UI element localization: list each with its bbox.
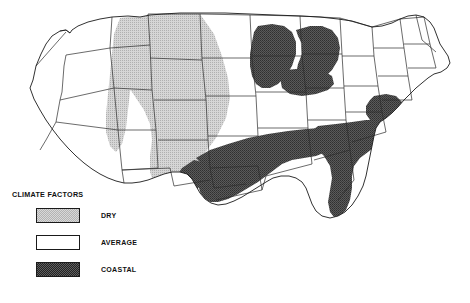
legend-row-average: AVERAGE <box>12 235 162 250</box>
legend-row-dry: DRY <box>12 208 162 223</box>
average-swatch <box>36 235 80 250</box>
legend-row-coastal: COASTAL <box>12 262 162 277</box>
dry-swatch <box>36 208 80 223</box>
legend-label-coastal: COASTAL <box>101 266 136 273</box>
map-legend: CLIMATE FACTORS DRY AVERAGE COASTAL <box>12 190 162 289</box>
coastal-swatch <box>36 262 80 277</box>
legend-label-average: AVERAGE <box>101 239 137 246</box>
legend-label-dry: DRY <box>101 212 116 219</box>
legend-title: CLIMATE FACTORS <box>12 190 162 199</box>
